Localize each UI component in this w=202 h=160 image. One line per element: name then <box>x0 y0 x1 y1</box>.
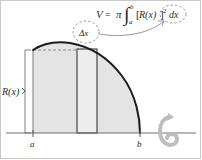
formula-pi: π <box>116 8 122 20</box>
slice-rectangle <box>77 49 97 133</box>
figure-container: V = π ∫ b a [ R(x) ] 2 dx Δx R(x) a b <box>0 0 202 160</box>
rotation-arrowhead <box>167 113 174 121</box>
label-upper-bound: b <box>137 139 142 149</box>
formula-equals: = <box>105 9 111 20</box>
label-lower-bound: a <box>30 139 35 149</box>
disk-method-figure: V = π ∫ b a [ R(x) ] 2 dx Δx R(x) a b <box>0 0 202 160</box>
formula-lower-limit: a <box>129 18 133 26</box>
label-radius: R(x) <box>1 86 20 98</box>
formula-upper-limit: b <box>130 3 134 11</box>
representative-slice <box>77 49 97 133</box>
label-delta-x: Δx <box>78 28 88 38</box>
formula-differential: dx <box>169 9 179 20</box>
formula-integrand: R(x) <box>138 9 157 21</box>
formula-exponent: 2 <box>163 7 167 15</box>
formula-V: V <box>96 8 104 20</box>
rotation-swirl <box>160 117 177 145</box>
radius-bracket <box>22 50 31 133</box>
rotation-arrow-icon <box>160 113 177 145</box>
